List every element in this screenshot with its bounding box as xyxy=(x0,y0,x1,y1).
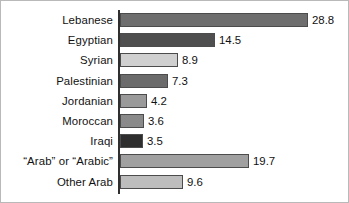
bar-value-label: 8.9 xyxy=(182,50,198,70)
bar-container xyxy=(120,13,308,27)
bar xyxy=(120,74,168,88)
bar xyxy=(120,53,178,67)
bar-row: Iraqi3.5 xyxy=(1,131,348,151)
bar-value-label: 7.3 xyxy=(172,71,188,91)
category-label: Jordanian xyxy=(1,91,113,111)
bar-row: Palestinian7.3 xyxy=(1,71,348,91)
bar-value-label: 19.7 xyxy=(253,151,275,171)
bar-row: “Arab” or “Arabic”19.7 xyxy=(1,151,348,171)
bar-value-label: 3.5 xyxy=(147,131,163,151)
bar xyxy=(120,33,215,47)
bar-row: Syrian8.9 xyxy=(1,50,348,70)
category-label: Lebanese xyxy=(1,10,113,30)
bar-container xyxy=(120,53,178,67)
bar-container xyxy=(120,134,143,148)
bar-value-label: 9.6 xyxy=(187,172,203,192)
bar xyxy=(120,175,183,189)
bar-container xyxy=(120,94,147,108)
bar-row: Moroccan3.6 xyxy=(1,111,348,131)
bar-container xyxy=(120,175,183,189)
bar-value-label: 28.8 xyxy=(312,10,334,30)
plot-area: Lebanese28.8Egyptian14.5Syrian8.9Palesti… xyxy=(1,1,348,202)
bar-value-label: 3.6 xyxy=(148,111,164,131)
bar xyxy=(120,13,308,27)
category-label: “Arab” or “Arabic” xyxy=(1,151,113,171)
category-label: Syrian xyxy=(1,50,113,70)
bar-row: Egyptian14.5 xyxy=(1,30,348,50)
category-label: Palestinian xyxy=(1,71,113,91)
bar-row: Jordanian4.2 xyxy=(1,91,348,111)
category-label: Egyptian xyxy=(1,30,113,50)
bar xyxy=(120,94,147,108)
category-label: Iraqi xyxy=(1,131,113,151)
bar xyxy=(120,114,144,128)
bar-container xyxy=(120,154,249,168)
category-label: Other Arab xyxy=(1,172,113,192)
bar-value-label: 4.2 xyxy=(151,91,167,111)
bar-chart: Lebanese28.8Egyptian14.5Syrian8.9Palesti… xyxy=(0,0,349,203)
category-label: Moroccan xyxy=(1,111,113,131)
bar-container xyxy=(120,33,215,47)
bar-container xyxy=(120,74,168,88)
bar-value-label: 14.5 xyxy=(219,30,241,50)
bar xyxy=(120,134,143,148)
bar-row: Other Arab9.6 xyxy=(1,172,348,192)
bar-container xyxy=(120,114,144,128)
bar xyxy=(120,154,249,168)
bar-row: Lebanese28.8 xyxy=(1,10,348,30)
